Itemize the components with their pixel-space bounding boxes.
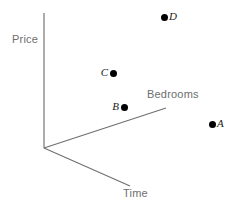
bedrooms-axis-line bbox=[44, 108, 166, 148]
data-point-dot-a bbox=[209, 121, 216, 128]
data-point-label-a: A bbox=[217, 118, 224, 129]
data-point-label-b: B bbox=[112, 101, 119, 112]
data-point-label-d: D bbox=[169, 11, 177, 22]
axis-label-bedrooms: Bedrooms bbox=[147, 88, 199, 100]
axis-label-time: Time bbox=[123, 187, 148, 199]
data-point-dot-b bbox=[121, 104, 128, 111]
data-point-dot-d bbox=[161, 14, 168, 21]
data-point-label-c: C bbox=[101, 67, 108, 78]
data-point-dot-c bbox=[110, 70, 117, 77]
axes-lines bbox=[0, 0, 238, 208]
axis-label-price: Price bbox=[12, 33, 38, 45]
time-axis-line bbox=[44, 148, 130, 186]
scatter-plot-figure: Price Bedrooms Time A B C D bbox=[0, 0, 238, 208]
